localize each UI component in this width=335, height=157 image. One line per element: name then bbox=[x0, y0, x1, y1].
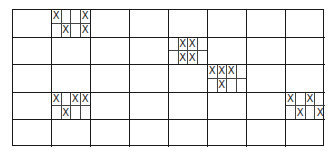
grid-cell bbox=[169, 93, 208, 120]
x-mark: X bbox=[189, 39, 196, 49]
sub-cell: X bbox=[188, 51, 198, 64]
grid-cell bbox=[208, 120, 247, 147]
grid-cell bbox=[130, 65, 169, 93]
sub-cell: X bbox=[81, 10, 91, 24]
sub-cell: X bbox=[81, 93, 91, 106]
grid-cell bbox=[91, 38, 130, 65]
sub-cell: X bbox=[62, 24, 72, 38]
x-mark: X bbox=[62, 25, 69, 35]
sub-cell bbox=[237, 79, 247, 93]
grid-cell bbox=[247, 38, 286, 65]
sub-cell bbox=[52, 24, 62, 38]
sub-cell bbox=[62, 10, 72, 24]
sub-cell: X bbox=[227, 65, 237, 79]
x-mark: X bbox=[228, 66, 235, 76]
grid-cell bbox=[208, 10, 247, 38]
sub-cell bbox=[52, 106, 62, 119]
sub-cell bbox=[286, 106, 296, 119]
grid-cell bbox=[208, 38, 247, 65]
grid-cell bbox=[169, 65, 208, 93]
x-mark: X bbox=[209, 66, 216, 76]
sub-cell bbox=[71, 106, 81, 119]
grid-cell bbox=[52, 38, 91, 65]
sub-cell bbox=[198, 51, 208, 64]
sub-cell bbox=[169, 51, 179, 64]
sub-cell: X bbox=[306, 93, 316, 106]
sub-cell: X bbox=[52, 93, 62, 106]
sub-cell bbox=[237, 65, 247, 79]
subdivided-cell: XXXX bbox=[208, 65, 246, 92]
x-mark: X bbox=[317, 108, 324, 118]
grid-cell bbox=[247, 10, 286, 38]
sub-cell bbox=[71, 24, 81, 38]
grid-cell bbox=[130, 120, 169, 147]
x-mark: X bbox=[218, 66, 225, 76]
x-mark: X bbox=[53, 94, 60, 104]
grid-cell bbox=[13, 120, 52, 147]
grid-cell bbox=[286, 65, 325, 93]
grid-cell bbox=[286, 10, 325, 38]
grid-diagram: XXXXXXXXXXXXXXXXXXXX bbox=[12, 9, 324, 146]
subdivided-cell: XXXX bbox=[52, 93, 90, 119]
x-mark: X bbox=[189, 53, 196, 63]
sub-cell: X bbox=[52, 10, 62, 24]
grid-cell bbox=[130, 93, 169, 120]
grid-cell bbox=[52, 120, 91, 147]
sub-cell: X bbox=[62, 106, 72, 119]
sub-cell bbox=[306, 106, 316, 119]
grid-cell bbox=[13, 65, 52, 93]
sub-cell: X bbox=[188, 38, 198, 51]
grid-cell: XXXX bbox=[208, 65, 247, 93]
grid-cell bbox=[130, 10, 169, 38]
grid-cell bbox=[247, 120, 286, 147]
sub-cell: X bbox=[296, 106, 306, 119]
x-mark: X bbox=[306, 94, 313, 104]
grid-cell: XXXX bbox=[52, 10, 91, 38]
sub-cell: X bbox=[81, 24, 91, 38]
grid-cell: XXXX bbox=[169, 38, 208, 65]
sub-cell bbox=[296, 93, 306, 106]
grid-cell bbox=[13, 93, 52, 120]
subdivided-cell: XXXX bbox=[52, 10, 90, 37]
sub-cell: X bbox=[179, 51, 189, 64]
grid-cell bbox=[247, 93, 286, 120]
grid-cell bbox=[13, 10, 52, 38]
sub-cell bbox=[208, 79, 218, 93]
sub-cell bbox=[62, 93, 72, 106]
x-mark: X bbox=[297, 108, 304, 118]
sub-cell: X bbox=[208, 65, 218, 79]
sub-cell: X bbox=[286, 93, 296, 106]
grid-cell bbox=[169, 120, 208, 147]
x-mark: X bbox=[82, 94, 89, 104]
x-mark: X bbox=[218, 80, 225, 90]
grid-cell: XXXX bbox=[286, 93, 325, 120]
grid-cell bbox=[52, 65, 91, 93]
grid-cell bbox=[169, 10, 208, 38]
grid-cell bbox=[130, 38, 169, 65]
x-mark: X bbox=[179, 53, 186, 63]
grid-cell bbox=[91, 65, 130, 93]
sub-cell bbox=[315, 93, 325, 106]
sub-cell bbox=[198, 38, 208, 51]
grid-cell bbox=[286, 38, 325, 65]
x-mark: X bbox=[82, 11, 89, 21]
x-mark: X bbox=[62, 108, 69, 118]
sub-cell: X bbox=[71, 93, 81, 106]
sub-cell bbox=[81, 106, 91, 119]
sub-cell: X bbox=[315, 106, 325, 119]
grid-cell: XXXX bbox=[52, 93, 91, 120]
sub-cell bbox=[169, 38, 179, 51]
sub-cell bbox=[71, 10, 81, 24]
grid-cell bbox=[91, 120, 130, 147]
grid-cell bbox=[91, 93, 130, 120]
grid-cell bbox=[91, 10, 130, 38]
x-mark: X bbox=[53, 11, 60, 21]
x-mark: X bbox=[82, 25, 89, 35]
grid-cell bbox=[13, 38, 52, 65]
grid-cell bbox=[208, 93, 247, 120]
sub-cell: X bbox=[218, 79, 228, 93]
x-mark: X bbox=[179, 39, 186, 49]
sub-cell bbox=[227, 79, 237, 93]
x-mark: X bbox=[72, 94, 79, 104]
grid-cell bbox=[286, 120, 325, 147]
